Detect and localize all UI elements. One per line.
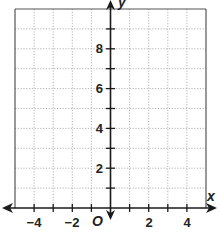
x-tick-label-2: 2 [145,215,152,230]
y-tick-label-4: 4 [96,121,104,136]
x-tick-label-neg2: −2 [65,215,80,230]
y-tick-label-6: 6 [96,81,103,96]
y-tick-label-2: 2 [96,161,103,176]
x-tick-label-neg4: −4 [27,215,43,230]
origin-label: O [92,213,103,229]
x-axis [2,203,217,213]
y-axis [106,0,115,220]
coordinate-plane: y x O −4 −2 2 4 2 4 6 8 [0,0,219,234]
y-tick-label-8: 8 [96,41,103,56]
x-tick-label-4: 4 [183,215,191,230]
y-axis-label: y [117,0,127,10]
x-axis-label: x [206,188,216,204]
